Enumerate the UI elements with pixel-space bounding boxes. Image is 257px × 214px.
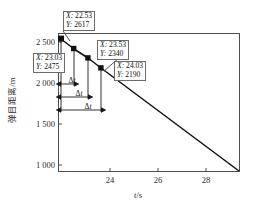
datatip-2-y-value: 2340 [108, 49, 123, 58]
delta-t-label-1: Δt [60, 76, 84, 85]
datatip-3[interactable]: X: 23.03 Y: 2475 [33, 53, 65, 73]
x-axis-title-unit: /s [136, 190, 142, 200]
delta-t-label-2-variable: t [80, 89, 82, 98]
y-tick-label-1000: 1 000 [13, 160, 55, 170]
delta-t-label-2: Δt [67, 89, 91, 98]
x-axis-title: t/s [134, 190, 142, 200]
y-tick-label-2500: 2 500 [13, 37, 55, 47]
x-tick-label-24: 24 [98, 175, 122, 185]
datatip-3-y-row: Y: 2475 [36, 63, 62, 72]
delta-t-label-1-variable: t [73, 76, 75, 85]
datatip-3-y-key: Y: [36, 62, 42, 71]
y-tick-label-2000: 2 000 [13, 78, 55, 88]
delta-t-label-3: Δt [76, 102, 100, 111]
datatip-2[interactable]: X: 23.53 Y: 2340 [97, 40, 129, 60]
datatip-1-y-value: 2617 [74, 20, 89, 29]
datatip-4-y-value: 2190 [125, 70, 140, 79]
datatip-1[interactable]: X: 22.53 Y: 2617 [63, 11, 95, 31]
datatip-1-y-row: Y: 2617 [66, 21, 92, 30]
datatip-4-y-row: Y: 2190 [117, 71, 143, 80]
x-axis-ticks [110, 168, 206, 172]
datatip-4[interactable]: X: 24.03 Y: 2190 [114, 61, 146, 81]
datatip-2-y-row: Y: 2340 [100, 50, 126, 59]
y-tick-label-1500: 1 500 [13, 119, 55, 129]
datatip-2-y-key: Y: [100, 49, 106, 58]
y-axis-title: 弹目距离/m [5, 58, 17, 142]
x-tick-label-26: 26 [146, 175, 170, 185]
chart-figure: 2 500 2 000 1 500 1 000 24 26 28 t/s 弹目距… [0, 0, 257, 214]
delta-t-label-3-variable: t [89, 102, 91, 111]
datatip-3-y-value: 2475 [44, 62, 59, 71]
x-tick-label-28: 28 [194, 175, 218, 185]
datatip-4-y-key: Y: [117, 70, 123, 79]
datatip-1-y-key: Y: [66, 20, 72, 29]
chart-vector-layer [0, 0, 257, 214]
